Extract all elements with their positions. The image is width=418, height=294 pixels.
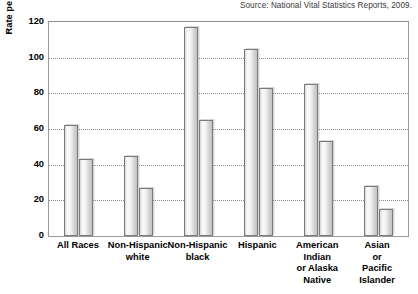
bar-group xyxy=(124,22,153,236)
bar[interactable] xyxy=(139,188,153,236)
bar-group xyxy=(364,22,393,236)
bar-group xyxy=(184,22,213,236)
bar[interactable] xyxy=(304,84,318,236)
source-note: Source: National Vital Statistics Report… xyxy=(240,1,412,10)
bar[interactable] xyxy=(64,125,78,236)
bar[interactable] xyxy=(199,120,213,236)
bar[interactable] xyxy=(184,27,198,236)
y-tick-label: 0 xyxy=(16,230,44,240)
x-tick-label: Asian or Pacific Islander xyxy=(341,240,413,286)
bar[interactable] xyxy=(319,141,333,236)
bar[interactable] xyxy=(364,186,378,236)
gridline xyxy=(49,165,408,166)
y-tick-label: 40 xyxy=(16,159,44,169)
plot-area xyxy=(48,21,409,237)
gridline xyxy=(49,58,408,59)
bar[interactable] xyxy=(244,49,258,236)
y-tick-label: 20 xyxy=(16,194,44,204)
y-tick-label: 120 xyxy=(16,16,44,26)
x-axis-tick-labels: All RacesNon-Hispanic whiteNon-Hispanic … xyxy=(48,240,409,294)
y-axis-title-container: Rate per 1,000 females in specified grou… xyxy=(2,18,16,238)
bar[interactable] xyxy=(259,88,273,236)
bar[interactable] xyxy=(379,209,393,236)
bar-group xyxy=(304,22,333,236)
y-tick-label: 60 xyxy=(16,123,44,133)
y-tick-label: 80 xyxy=(16,87,44,97)
bar-chart: Source: National Vital Statistics Report… xyxy=(0,0,418,294)
gridline xyxy=(49,93,408,94)
bar[interactable] xyxy=(79,159,93,236)
bar-group xyxy=(244,22,273,236)
y-tick-label: 100 xyxy=(16,52,44,62)
gridline xyxy=(49,129,408,130)
bar-group xyxy=(64,22,93,236)
y-axis-title: Rate per 1,000 females in specified grou… xyxy=(2,0,16,52)
bar[interactable] xyxy=(124,156,138,236)
gridline xyxy=(49,200,408,201)
